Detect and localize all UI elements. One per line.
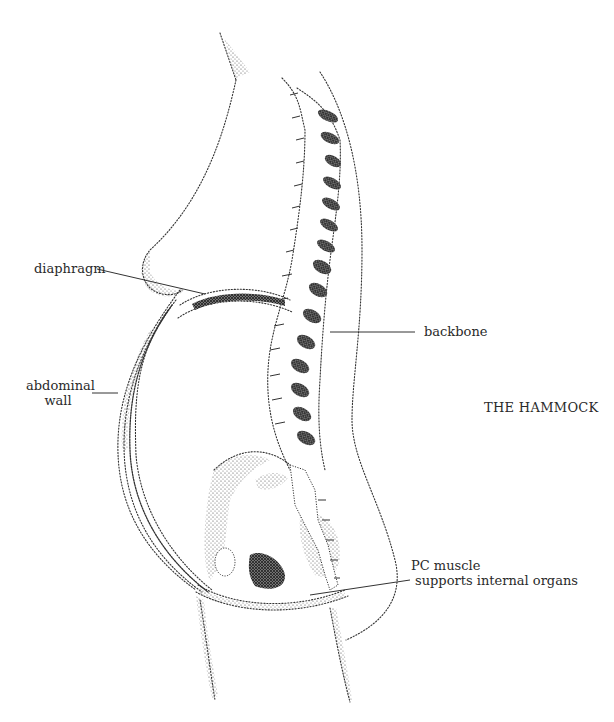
abdominal-wall-label-line2: wall [26,393,90,408]
legs [196,596,352,702]
backbone-spine [268,78,344,470]
chin-shading [220,33,250,80]
abdominal-wall-label-line1: abdominal [26,378,90,393]
pc-muscle-hammock [196,585,348,610]
pc-muscle-label-line2: supports internal organs [411,573,578,588]
pc-muscle-label: PC muscle supports internal organs [411,558,578,588]
abdominal-wall-label: abdominal wall [26,378,90,408]
abdominal-wall [118,290,212,592]
front-torso-outline [141,80,236,296]
pc-muscle-label-line1: PC muscle [411,558,578,573]
diaphragm-label: diaphragm [34,261,106,276]
pelvis [204,452,340,590]
figure-title: THE HAMMOCK [484,400,599,415]
anatomy-illustration [0,0,614,722]
backbone-label: backbone [424,324,487,339]
diaphragm-muscle [178,289,292,318]
